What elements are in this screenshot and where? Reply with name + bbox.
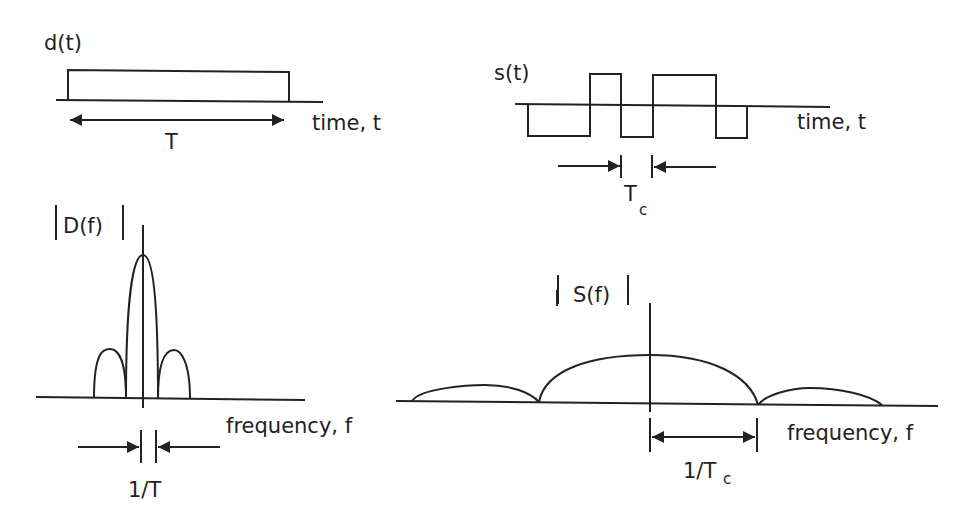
data-time-panel: d(t) T time, t: [44, 31, 381, 154]
duration-label: T: [164, 130, 178, 154]
freq-axis-label-2: frequency, f: [787, 421, 914, 445]
dsss-spectrum-diagram: d(t) T time, t s(t) T c time, t D(f) 1/T…: [0, 0, 968, 527]
side-lobe-right: [158, 350, 190, 399]
spread-side-lobe-left: [412, 385, 539, 402]
spread-width-label: 1/T: [683, 459, 716, 483]
time-axis-label: time, t: [312, 111, 381, 135]
rect-pulse: [68, 70, 289, 102]
spread-side-lobe-right: [758, 388, 882, 405]
time-axis-label-2: time, t: [797, 110, 866, 134]
svg-text:c: c: [723, 470, 731, 488]
spread-freq-panel: S(f) 1/T c frequency, f: [396, 275, 938, 488]
S-f-label: S(f): [573, 283, 610, 307]
spread-time-panel: s(t) T c time, t: [494, 61, 866, 219]
data-freq-panel: D(f) 1/T frequency, f: [36, 205, 353, 502]
mainlobe-width-label: 1/T: [128, 478, 161, 502]
chip-duration-label: T: [623, 182, 637, 206]
svg-text:c: c: [639, 201, 647, 219]
side-lobe-left: [94, 349, 126, 398]
s-t-label: s(t): [494, 61, 530, 85]
spread-main-lobe: [539, 355, 758, 405]
d-t-label: d(t): [44, 31, 82, 55]
D-f-label: D(f): [63, 214, 103, 238]
freq-axis-label: frequency, f: [226, 414, 353, 438]
